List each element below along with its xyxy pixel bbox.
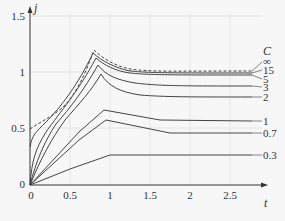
curve-5	[30, 58, 252, 185]
svg-text:0.5: 0.5	[11, 122, 25, 134]
label-2: 2	[263, 91, 269, 103]
curves	[30, 50, 252, 185]
svg-text:2.5: 2.5	[223, 189, 237, 201]
x-axis-label: t	[264, 196, 268, 210]
curve-0.3	[30, 155, 252, 185]
svg-text:0.5: 0.5	[63, 189, 77, 201]
label-1: 1	[263, 115, 269, 127]
label-0.7: 0.7	[263, 127, 277, 139]
svg-text:1: 1	[107, 189, 113, 201]
curve-2	[30, 74, 252, 185]
svg-text:0: 0	[20, 178, 26, 190]
x-ticks: 0 0.5 1 1.5 2 2.5	[28, 189, 237, 201]
svg-text:2: 2	[187, 189, 193, 201]
chart: j t 0 0.5 1 1.5 0 0.5 1 1.5 2 2.5 C ∞ 15…	[0, 0, 285, 221]
curve-1	[30, 110, 252, 185]
svg-text:1.5: 1.5	[11, 10, 25, 22]
x-axis-arrow-icon	[261, 183, 268, 188]
svg-text:1: 1	[20, 66, 26, 78]
axes	[30, 10, 262, 185]
curve-inf	[30, 50, 252, 129]
curve-labels: ∞ 15 5 3 2 1 0.7 0.3	[263, 55, 277, 161]
leader-lines	[252, 62, 262, 155]
y-ticks: 0 0.5 1 1.5	[11, 10, 25, 190]
grid	[30, 12, 262, 185]
chart-svg: j t 0 0.5 1 1.5 0 0.5 1 1.5 2 2.5 C ∞ 15…	[0, 0, 285, 221]
y-axis-label: j	[32, 1, 38, 15]
curve-3	[30, 65, 252, 185]
curve-0.7	[30, 120, 252, 185]
svg-text:1.5: 1.5	[143, 189, 157, 201]
label-0.3: 0.3	[263, 149, 277, 161]
y-axis-arrow-icon	[28, 6, 33, 13]
svg-text:0: 0	[28, 189, 34, 201]
